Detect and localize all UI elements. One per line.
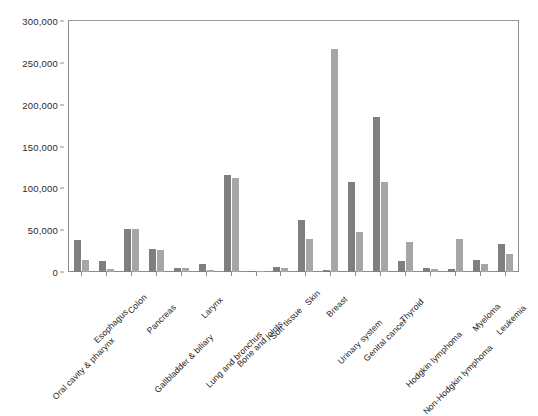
y-axis-tick-mark	[60, 188, 64, 189]
bar-group	[443, 21, 468, 272]
bar-2	[132, 229, 139, 272]
y-axis-tick-label: 0	[53, 267, 58, 278]
bar-group	[393, 21, 418, 272]
bar-1	[74, 240, 81, 272]
bar-group	[418, 21, 443, 272]
y-axis: 050,000100,000150,000200,000250,000300,0…	[0, 20, 64, 272]
y-axis-tick-mark	[60, 104, 64, 105]
bar-group	[269, 21, 294, 272]
x-axis-category-label: Breast	[342, 276, 367, 301]
bar-group	[244, 21, 269, 272]
bar-group	[219, 21, 244, 272]
bar-2	[406, 242, 413, 272]
bar-1	[149, 249, 156, 272]
bar-2	[331, 49, 338, 272]
bar-2	[232, 178, 239, 272]
bar-1	[199, 264, 206, 272]
y-axis-tick-label: 50,000	[28, 225, 58, 236]
bar-group	[493, 21, 518, 272]
x-axis-category-label-text: Oral cavity & pharynx	[51, 335, 117, 401]
bar-2	[456, 239, 463, 272]
y-axis-tick-mark	[60, 21, 64, 22]
x-axis-category-label-text: Larynx	[199, 295, 225, 321]
bar-1	[473, 260, 480, 272]
bar-group	[144, 21, 169, 272]
bar-1	[373, 117, 380, 272]
bar-group	[69, 21, 94, 272]
bar-2	[82, 260, 89, 272]
bar-1	[99, 261, 106, 272]
bar-group	[94, 21, 119, 272]
bar-1	[224, 175, 231, 272]
y-axis-tick-label: 300,000	[22, 16, 58, 27]
bar-group	[368, 21, 393, 272]
y-axis-tick-label: 250,000	[22, 57, 58, 68]
y-axis-tick-mark	[60, 146, 64, 147]
bars-container	[69, 21, 518, 272]
bar-group	[468, 21, 493, 272]
y-axis-tick-mark	[60, 272, 64, 273]
bar-group	[343, 21, 368, 272]
bar-2	[356, 232, 363, 272]
bar-1	[348, 182, 355, 272]
y-axis-tick-label: 200,000	[22, 99, 58, 110]
bar-group	[119, 21, 144, 272]
y-axis-tick-label: 150,000	[22, 141, 58, 152]
y-axis-tick-label: 100,000	[22, 183, 58, 194]
bar-1	[498, 244, 505, 272]
x-axis-category-label: Pancreas	[171, 276, 204, 309]
y-axis-tick-mark	[60, 62, 64, 63]
y-axis-tick-mark	[60, 230, 64, 231]
bar-2	[381, 182, 388, 272]
bar-2	[157, 250, 164, 272]
bar-group	[318, 21, 343, 272]
x-axis-category-label: Larynx	[218, 276, 244, 302]
bar-1	[298, 220, 305, 272]
bar-2	[481, 264, 488, 272]
bar-1	[398, 261, 405, 272]
bar-1	[124, 229, 131, 273]
x-axis-category-label-text: Breast	[324, 294, 349, 319]
bar-2	[506, 254, 513, 272]
bar-group	[293, 21, 318, 272]
bar-group	[169, 21, 194, 272]
bar-2	[306, 239, 313, 272]
bar-group	[194, 21, 219, 272]
x-axis-labels: Oral cavity & pharynxEsophagusColonPancr…	[69, 276, 518, 376]
